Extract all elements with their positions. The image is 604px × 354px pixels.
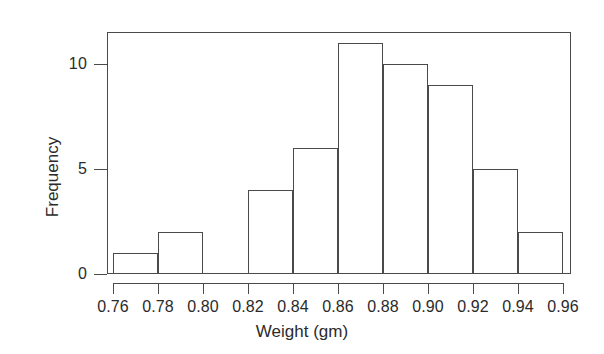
x-tick-mark bbox=[248, 283, 249, 294]
plot-frame bbox=[107, 32, 571, 274]
x-tick-mark bbox=[518, 283, 519, 294]
x-tick-label: 0.84 bbox=[277, 298, 309, 315]
x-tick-label: 0.88 bbox=[367, 298, 399, 315]
y-tick-mark bbox=[94, 64, 107, 65]
x-tick-label: 0.86 bbox=[322, 298, 354, 315]
x-tick-label: 0.78 bbox=[142, 298, 174, 315]
x-tick-label: 0.80 bbox=[187, 298, 219, 315]
x-tick-mark bbox=[383, 283, 384, 294]
x-tick-label: 0.94 bbox=[502, 298, 534, 315]
y-tick-label: 5 bbox=[78, 161, 87, 177]
x-tick-label: 0.96 bbox=[547, 298, 579, 315]
x-tick-mark bbox=[293, 283, 294, 294]
x-tick-mark bbox=[158, 283, 159, 294]
histogram-figure: Frequency 0510 0.760.780.800.820.840.860… bbox=[0, 0, 604, 354]
x-axis: 0.760.780.800.820.840.860.880.900.920.94… bbox=[0, 274, 604, 354]
x-tick-mark bbox=[203, 283, 204, 294]
x-tick-mark bbox=[428, 283, 429, 294]
x-tick-label: 0.92 bbox=[457, 298, 489, 315]
x-tick-label: 0.76 bbox=[97, 298, 129, 315]
x-tick-mark bbox=[113, 283, 114, 294]
x-axis-title: Weight (gm) bbox=[0, 322, 604, 342]
x-tick-mark bbox=[473, 283, 474, 294]
y-tick-label: 10 bbox=[69, 56, 87, 72]
x-tick-label: 0.90 bbox=[412, 298, 444, 315]
y-tick-mark bbox=[94, 169, 107, 170]
x-tick-mark bbox=[338, 283, 339, 294]
x-tick-mark bbox=[563, 283, 564, 294]
y-axis-title: Frequency bbox=[43, 137, 62, 217]
x-tick-label: 0.82 bbox=[232, 298, 264, 315]
